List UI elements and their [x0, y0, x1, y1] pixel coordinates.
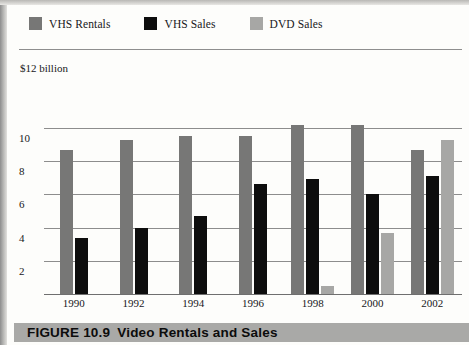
- bar-group-2002: [402, 89, 462, 294]
- x-axis-label-2000: 2000: [343, 297, 403, 313]
- legend-item-vhssales: VHS Sales: [144, 17, 215, 30]
- chart-bar-groups: [44, 89, 462, 294]
- figure-caption-number: FIGURE 10.9: [27, 325, 110, 340]
- y-axis-tick-8: 8: [19, 165, 39, 177]
- bar-2000-dvd-sales: [381, 233, 394, 294]
- scan-edge-left: [0, 0, 7, 345]
- legend-swatch-dvdsales: [250, 17, 263, 30]
- bar-2000-vhs-rentals: [351, 125, 364, 294]
- bar-group-1998: [283, 89, 343, 294]
- figure-caption-title: Video Rentals and Sales: [117, 325, 277, 340]
- x-axis-label-1994: 1994: [163, 297, 223, 313]
- bar-2002-vhs-sales: [426, 176, 439, 294]
- x-axis-label-1998: 1998: [283, 297, 343, 313]
- x-axis-tick-labels: 1990199219941996199820002002: [44, 297, 462, 313]
- chart-legend: VHS RentalsVHS SalesDVD Sales: [29, 17, 357, 30]
- y-axis-tick-10: 10: [19, 132, 39, 144]
- bar-1998-vhs-sales: [306, 179, 319, 294]
- legend-label-dvdsales: DVD Sales: [270, 18, 323, 30]
- gridline-baseline: [44, 294, 462, 295]
- legend-swatch-vhssales: [144, 17, 157, 30]
- bar-1996-vhs-sales: [254, 184, 267, 294]
- y-axis-unit-label: $12 billion: [20, 62, 68, 74]
- figure-page: VHS RentalsVHS SalesDVD Sales $12 billio…: [7, 5, 469, 345]
- bar-1990-vhs-sales: [75, 238, 88, 294]
- legend-label-vhssales: VHS Sales: [164, 18, 215, 30]
- bar-group-1990: [44, 89, 104, 294]
- bar-1992-vhs-rentals: [120, 140, 133, 294]
- x-axis-label-1990: 1990: [44, 297, 104, 313]
- bar-1990-vhs-rentals: [60, 150, 73, 294]
- bar-group-1992: [104, 89, 164, 294]
- legend-item-dvdsales: DVD Sales: [250, 17, 323, 30]
- x-axis-label-1992: 1992: [104, 297, 164, 313]
- bar-1998-vhs-rentals: [291, 125, 304, 294]
- bar-1998-dvd-sales: [321, 286, 334, 294]
- chart-plot-area: 246810: [19, 89, 462, 295]
- bar-group-1994: [163, 89, 223, 294]
- bar-group-1996: [223, 89, 283, 294]
- x-axis-label-1996: 1996: [223, 297, 283, 313]
- y-axis-tick-2: 2: [19, 265, 39, 277]
- bar-2000-vhs-sales: [366, 194, 379, 294]
- bar-2002-vhs-rentals: [411, 150, 424, 294]
- y-axis-tick-4: 4: [19, 232, 39, 244]
- legend-divider-rule: [19, 49, 462, 50]
- bar-1994-vhs-rentals: [179, 136, 192, 294]
- x-axis-label-2002: 2002: [402, 297, 462, 313]
- y-axis-tick-6: 6: [19, 198, 39, 210]
- bar-group-2000: [343, 89, 403, 294]
- bar-1992-vhs-sales: [135, 228, 148, 294]
- legend-label-rentals: VHS Rentals: [49, 18, 110, 30]
- bar-1994-vhs-sales: [194, 216, 207, 294]
- bar-1996-vhs-rentals: [239, 136, 252, 294]
- figure-caption: FIGURE 10.9Video Rentals and Sales: [27, 325, 278, 340]
- legend-swatch-rentals: [29, 17, 42, 30]
- bar-2002-dvd-sales: [441, 140, 454, 294]
- legend-item-rentals: VHS Rentals: [29, 17, 110, 30]
